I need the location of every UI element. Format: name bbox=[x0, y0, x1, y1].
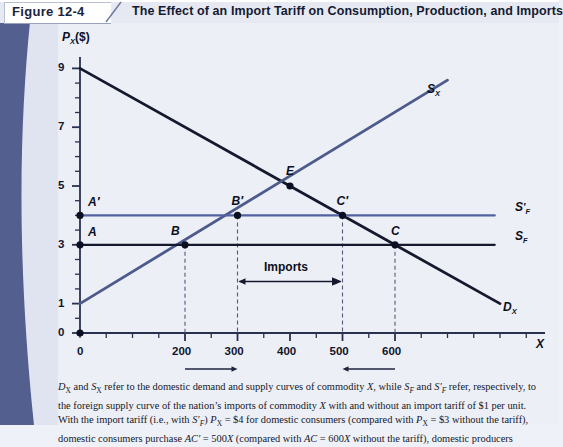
point-label-C-prime: C′ bbox=[337, 194, 349, 208]
y-axis-ticks bbox=[72, 68, 80, 333]
y-axis-title-unit: ($) bbox=[75, 30, 90, 44]
curve-label-S_F_prime: S′F bbox=[515, 200, 530, 216]
imports-label: Imports bbox=[264, 260, 308, 274]
point-label-C: C bbox=[391, 224, 400, 238]
curve-label-letter: S bbox=[515, 200, 523, 214]
below-axis-arrows bbox=[185, 366, 395, 372]
curve-label-letter: S bbox=[515, 229, 523, 243]
x-tick-label-0: 0 bbox=[77, 345, 83, 357]
imports-arrow bbox=[239, 278, 342, 284]
y-axis-title-p: P bbox=[62, 30, 70, 44]
curve-label-S_X: SX bbox=[427, 82, 440, 98]
figure-header: Figure 12-4 The Effect of an Import Tari… bbox=[0, 0, 559, 23]
x-tick-label-300: 300 bbox=[225, 345, 244, 357]
y-tick-label-0: 0 bbox=[58, 326, 64, 338]
figure-chart: PX($) X 013579 0200300400500600 A′AB′BEC… bbox=[0, 22, 559, 377]
curve-label-subscript: F bbox=[523, 236, 528, 245]
y-tick-label-7: 7 bbox=[58, 120, 64, 132]
curve-label-subscript: X bbox=[435, 89, 440, 98]
x-axis-ticks bbox=[80, 333, 526, 341]
figure-slash-divider bbox=[104, 1, 126, 23]
x-axis-title: X bbox=[536, 337, 544, 351]
figure-number: Figure 12-4 bbox=[12, 4, 85, 19]
y-tick-label-1: 1 bbox=[58, 297, 64, 309]
point-label-A-prime: A′ bbox=[88, 195, 100, 209]
x-tick-label-500: 500 bbox=[330, 345, 349, 357]
point-label-B: B bbox=[171, 224, 180, 238]
figure-title: The Effect of an Import Tariff on Consum… bbox=[132, 4, 563, 18]
y-axis-title: PX($) bbox=[62, 30, 90, 46]
caption-line-1: DX and SX refer to the domestic demand a… bbox=[58, 380, 554, 399]
curve-label-letter: D bbox=[503, 300, 512, 314]
x-tick-label-200: 200 bbox=[172, 345, 191, 357]
point-label-A: A bbox=[88, 225, 97, 239]
x-tick-label-400: 400 bbox=[277, 345, 296, 357]
axes bbox=[80, 57, 545, 333]
figure-caption: DX and SX refer to the domestic demand a… bbox=[58, 380, 554, 447]
curve-label-S_F: SF bbox=[515, 229, 528, 245]
curve-label-D_X: DX bbox=[503, 300, 517, 316]
chart-canvas bbox=[0, 22, 559, 377]
x-tick-label-600: 600 bbox=[382, 345, 401, 357]
y-tick-label-9: 9 bbox=[58, 61, 64, 73]
point-label-E: E bbox=[286, 164, 294, 178]
curve-label-subscript: F bbox=[525, 207, 530, 216]
caption-line-4: domestic consumers purchase AC′ = 500X (… bbox=[58, 432, 554, 447]
caption-line-3: With the import tariff (i.e., with S′F) … bbox=[58, 413, 554, 432]
curve-label-subscript: X bbox=[512, 307, 517, 316]
y-tick-label-5: 5 bbox=[58, 179, 64, 191]
dashed-droplines bbox=[185, 215, 395, 333]
point-label-B-prime: B′ bbox=[232, 194, 244, 208]
y-tick-label-3: 3 bbox=[58, 238, 64, 250]
curve-label-letter: S bbox=[427, 82, 435, 96]
caption-line-2: the foreign supply curve of the nation’s… bbox=[58, 399, 554, 414]
